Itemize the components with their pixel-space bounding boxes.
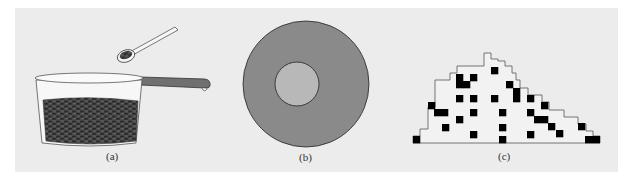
panel-b-annulus	[243, 21, 369, 147]
pot-handle	[140, 77, 210, 88]
panel-a-pot-illustration	[35, 27, 210, 146]
panel-c-staircase	[413, 53, 600, 143]
caption-c: (c)	[498, 150, 510, 162]
beans	[43, 98, 138, 144]
staircase-outline	[413, 53, 600, 143]
caption-b: (b)	[299, 151, 312, 163]
figure-canvas	[0, 0, 635, 180]
pot-rim	[35, 73, 143, 83]
inner-disk	[275, 62, 319, 106]
caption-a: (a)	[106, 150, 118, 162]
spoon-handle	[128, 27, 178, 56]
